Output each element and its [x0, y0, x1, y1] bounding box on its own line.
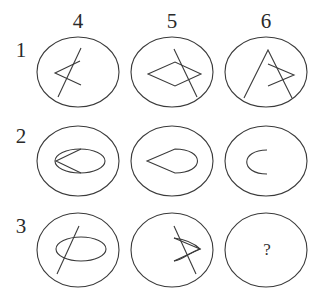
cell-1-6-figure: [225, 37, 307, 107]
open-angle: [55, 61, 81, 85]
teardrop: [147, 149, 198, 173]
arrowhead: [56, 149, 81, 173]
outer-ellipse: [37, 37, 119, 107]
slash-line: [57, 226, 79, 274]
lens-outer: [174, 238, 200, 261]
cell-2-5-figure: [131, 126, 213, 196]
cell-1-4-figure: [37, 37, 119, 107]
inner-ellipse: [56, 237, 106, 261]
outer-ellipse: [131, 37, 213, 107]
outer-ellipse: [131, 213, 213, 287]
puzzle-grid: 4 5 6 1 2 3: [0, 0, 322, 291]
inverted-v: [244, 50, 292, 98]
outer-ellipse: [131, 126, 213, 196]
rhombus: [148, 62, 201, 86]
cell-3-5-figure: [131, 213, 213, 287]
slash-line: [58, 48, 81, 97]
cell-2-6-figure: [225, 126, 307, 196]
outer-ellipse: [225, 37, 307, 107]
inner-ellipse: [55, 149, 105, 173]
cell-1-5-figure: [131, 37, 213, 107]
outer-ellipse: [37, 126, 119, 196]
question-mark: ?: [257, 240, 277, 260]
slash-line: [174, 226, 196, 274]
cell-3-4-figure: [37, 213, 119, 287]
outer-ellipse: [37, 213, 119, 287]
outer-ellipse: [225, 126, 307, 196]
slash-line: [174, 49, 197, 97]
cell-2-4-figure: [37, 126, 119, 196]
c-arc: [247, 150, 267, 174]
